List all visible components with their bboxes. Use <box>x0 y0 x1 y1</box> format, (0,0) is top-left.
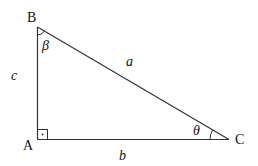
right-triangle-diagram: B A C a b c β θ <box>0 0 258 166</box>
side-label-c: c <box>11 68 18 83</box>
right-angle-dot <box>42 134 44 136</box>
vertex-label-c: C <box>235 132 244 147</box>
angle-arc-beta <box>38 31 45 35</box>
angle-label-beta: β <box>41 38 49 53</box>
vertex-label-a: A <box>23 138 34 153</box>
side-label-b: b <box>119 148 126 163</box>
side-a <box>38 27 230 140</box>
vertex-label-b: B <box>27 10 36 25</box>
angle-arc-theta <box>210 130 213 140</box>
angle-label-theta: θ <box>193 123 200 138</box>
side-label-a: a <box>126 54 133 69</box>
